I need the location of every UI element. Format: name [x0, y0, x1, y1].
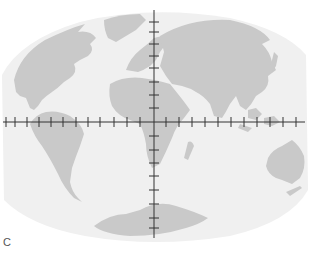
world-map: [0, 0, 313, 254]
panel-label: C: [3, 236, 11, 248]
